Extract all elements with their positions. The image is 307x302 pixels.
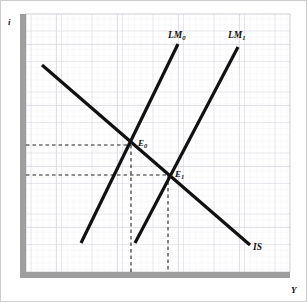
x-axis	[20, 272, 290, 278]
is-label: IS	[252, 242, 262, 252]
islm-figure: LM0 LM1 IS E0 E1 i Y	[0, 0, 307, 302]
plot-grid	[26, 14, 290, 272]
y-axis	[20, 14, 26, 278]
islm-chart-svg: LM0 LM1 IS E0 E1 i Y	[0, 0, 307, 302]
